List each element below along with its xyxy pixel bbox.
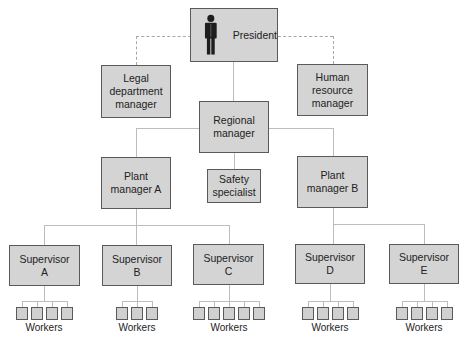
connector bbox=[136, 209, 137, 245]
worker-box bbox=[238, 307, 250, 320]
connector bbox=[44, 225, 229, 226]
supervisor-c-box: Supervisor C bbox=[193, 244, 264, 285]
connector bbox=[308, 301, 353, 302]
worker-box bbox=[61, 307, 73, 320]
supervisor-b-box: Supervisor B bbox=[102, 245, 172, 286]
safety-specialist-label: Safety specialist bbox=[212, 173, 255, 199]
worker-box bbox=[208, 307, 220, 320]
worker-box bbox=[146, 307, 158, 320]
connector bbox=[233, 62, 234, 101]
connector bbox=[136, 128, 199, 129]
plant-manager-a-box: Plant manager A bbox=[101, 157, 171, 209]
worker-box bbox=[441, 307, 453, 320]
worker-box bbox=[317, 307, 329, 320]
president-box: President bbox=[190, 8, 278, 62]
worker-box bbox=[426, 307, 438, 320]
worker-box bbox=[302, 307, 314, 320]
connector bbox=[402, 301, 447, 302]
workers-label: Workers bbox=[107, 322, 167, 333]
workers-label: Workers bbox=[199, 322, 259, 333]
hr-manager-box: Human resource manager bbox=[297, 64, 368, 116]
connector bbox=[229, 225, 230, 244]
hr-manager-label: Human resource manager bbox=[312, 71, 353, 110]
regional-manager-box: Regional manager bbox=[199, 101, 269, 153]
workers-label: Workers bbox=[14, 322, 74, 333]
plant-manager-b-box: Plant manager B bbox=[297, 156, 368, 208]
president-label: President bbox=[233, 29, 277, 42]
legal-manager-label: Legal department manager bbox=[109, 72, 162, 111]
staff-connector bbox=[136, 36, 191, 37]
worker-box bbox=[332, 307, 344, 320]
connector bbox=[229, 285, 230, 301]
connector bbox=[333, 224, 424, 225]
org-chart: President Legal department manager Human… bbox=[0, 0, 466, 346]
plant-manager-b-label: Plant manager B bbox=[307, 169, 358, 195]
supervisor-e-label: Supervisor E bbox=[399, 251, 449, 277]
connector bbox=[333, 208, 334, 244]
staff-connector bbox=[333, 36, 334, 64]
plant-manager-a-label: Plant manager A bbox=[111, 170, 162, 196]
connector bbox=[234, 153, 235, 169]
worker-box bbox=[396, 307, 408, 320]
worker-box bbox=[411, 307, 423, 320]
connector bbox=[136, 128, 137, 157]
safety-specialist-box: Safety specialist bbox=[207, 169, 261, 203]
worker-box bbox=[193, 307, 205, 320]
worker-box bbox=[347, 307, 359, 320]
connector bbox=[424, 224, 425, 244]
legal-manager-box: Legal department manager bbox=[101, 65, 171, 118]
workers-label: Workers bbox=[300, 322, 360, 333]
supervisor-d-label: Supervisor D bbox=[305, 251, 355, 277]
connector bbox=[44, 286, 45, 301]
worker-box bbox=[131, 307, 143, 320]
supervisor-c-label: Supervisor C bbox=[203, 252, 253, 278]
supervisor-d-box: Supervisor D bbox=[295, 244, 365, 284]
connector bbox=[424, 284, 425, 301]
supervisor-a-label: Supervisor A bbox=[19, 253, 69, 279]
connector bbox=[44, 225, 45, 245]
staff-connector bbox=[278, 36, 333, 37]
supervisor-b-label: Supervisor B bbox=[112, 253, 162, 279]
connector bbox=[333, 128, 334, 156]
worker-box bbox=[253, 307, 265, 320]
regional-manager-label: Regional manager bbox=[213, 114, 254, 140]
worker-box bbox=[16, 307, 28, 320]
supervisor-e-box: Supervisor E bbox=[389, 244, 459, 284]
worker-box bbox=[116, 307, 128, 320]
worker-box bbox=[31, 307, 43, 320]
worker-box bbox=[46, 307, 58, 320]
connector bbox=[330, 284, 331, 301]
worker-box bbox=[223, 307, 235, 320]
supervisor-a-box: Supervisor A bbox=[9, 245, 80, 286]
connector bbox=[137, 286, 138, 301]
person-icon bbox=[203, 14, 219, 56]
workers-label: Workers bbox=[394, 322, 454, 333]
connector bbox=[22, 301, 67, 302]
staff-connector bbox=[136, 36, 137, 65]
connector bbox=[269, 128, 333, 129]
